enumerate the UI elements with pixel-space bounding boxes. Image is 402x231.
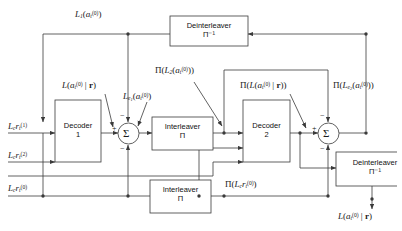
junction-decoder2-out bbox=[298, 131, 301, 134]
decoder1-label: Decoder 1 bbox=[55, 121, 101, 140]
interleaver-mid-label: Interleaver Π bbox=[152, 122, 213, 141]
junction-interleaved-input bbox=[222, 194, 225, 197]
label-interleaved-l2: Π(L2(at(0))) bbox=[155, 66, 194, 76]
label-extrinsic1: Le1(at(0)) bbox=[123, 92, 151, 103]
sum-right-sign-top: − bbox=[320, 112, 325, 120]
deinterleaver-right-label: Deinterleaver Π⁻¹ bbox=[336, 158, 402, 177]
interleaver-bottom-label: Interleaver Π bbox=[150, 185, 211, 204]
junction-bottom-sum-right bbox=[326, 194, 329, 197]
label-feedback-top: L1(at(0)) bbox=[75, 10, 101, 20]
label-input-parity0: Lcrt(0) bbox=[8, 184, 27, 194]
sum-right-sign-in: + bbox=[312, 125, 317, 133]
sum-right-sign-bottom: − bbox=[320, 145, 325, 153]
sum-left-sign-top: − bbox=[120, 112, 125, 120]
label-interleaved-llr: Π(L(at(0) | r)) bbox=[240, 81, 286, 91]
junction-parity0-riser bbox=[41, 194, 44, 197]
sum-left-symbol: Σ bbox=[123, 128, 129, 139]
leader-extrinsic1-visible bbox=[138, 102, 147, 126]
sum-right-symbol: Σ bbox=[323, 128, 329, 139]
junction-bottom-sum-left bbox=[126, 194, 129, 197]
label-interleaved-input: Π(Lcrt(0)) bbox=[225, 180, 257, 190]
label-llr-decoder1: L(at(0) | r) bbox=[62, 81, 96, 91]
leader-llr-decoder1 bbox=[105, 94, 113, 127]
junction-top-rail bbox=[126, 32, 129, 35]
leader-pi-llr bbox=[290, 94, 306, 128]
junction-output bbox=[370, 197, 373, 200]
label-output-llr: L(at(0) | r) bbox=[338, 212, 372, 222]
sum-left-sign-bottom: − bbox=[120, 145, 125, 153]
sum-left-sign-in: + bbox=[112, 125, 117, 133]
label-input-systematic: Lcrt(1) bbox=[8, 122, 27, 132]
label-input-parity2: Lcrt(2) bbox=[8, 151, 27, 161]
deinterleaver-top-label: Deinterleaver Π⁻¹ bbox=[170, 21, 248, 40]
junction-sum-right-bus bbox=[364, 131, 367, 134]
label-interleaved-ext2: Π(Le2(at(0))) bbox=[333, 81, 374, 92]
decoder2-label: Decoder 2 bbox=[243, 121, 290, 140]
junction-top-right bbox=[364, 32, 367, 35]
junction-decoder2-in bbox=[222, 131, 225, 134]
